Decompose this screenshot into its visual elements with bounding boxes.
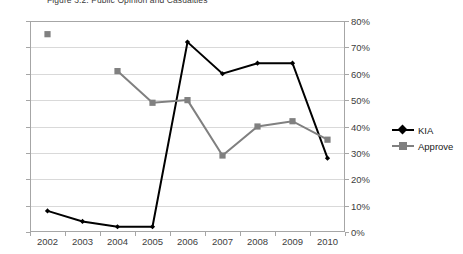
data-point-marker (114, 68, 120, 74)
data-point-marker (45, 208, 50, 213)
data-point-marker (255, 61, 260, 66)
data-point-marker (80, 219, 85, 224)
data-point-marker (115, 224, 120, 229)
legend-label-kia: KIA (418, 125, 433, 136)
legend-marker-square-icon (392, 141, 414, 151)
chart-container: Figure 3.2: Public Opinion and Casualtie… (0, 0, 463, 254)
data-point-marker (149, 100, 155, 106)
data-point-marker (324, 137, 330, 143)
series-line (118, 71, 328, 155)
data-point-marker (325, 156, 330, 161)
legend-marker-diamond-icon (392, 125, 414, 135)
series-approve (44, 31, 330, 159)
data-point-marker (254, 123, 260, 129)
legend-item-kia[interactable]: KIA (392, 122, 453, 138)
series-kia (45, 40, 330, 230)
series-line (48, 42, 328, 227)
legend-item-approve[interactable]: Approve (392, 138, 453, 154)
data-point-marker (44, 31, 50, 37)
data-point-marker (150, 224, 155, 229)
data-point-marker (219, 152, 225, 158)
data-point-marker (290, 61, 295, 66)
data-point-marker (289, 118, 295, 124)
legend-label-approve: Approve (418, 141, 453, 152)
chart-legend: KIA Approve (392, 122, 453, 154)
data-point-marker (184, 97, 190, 103)
